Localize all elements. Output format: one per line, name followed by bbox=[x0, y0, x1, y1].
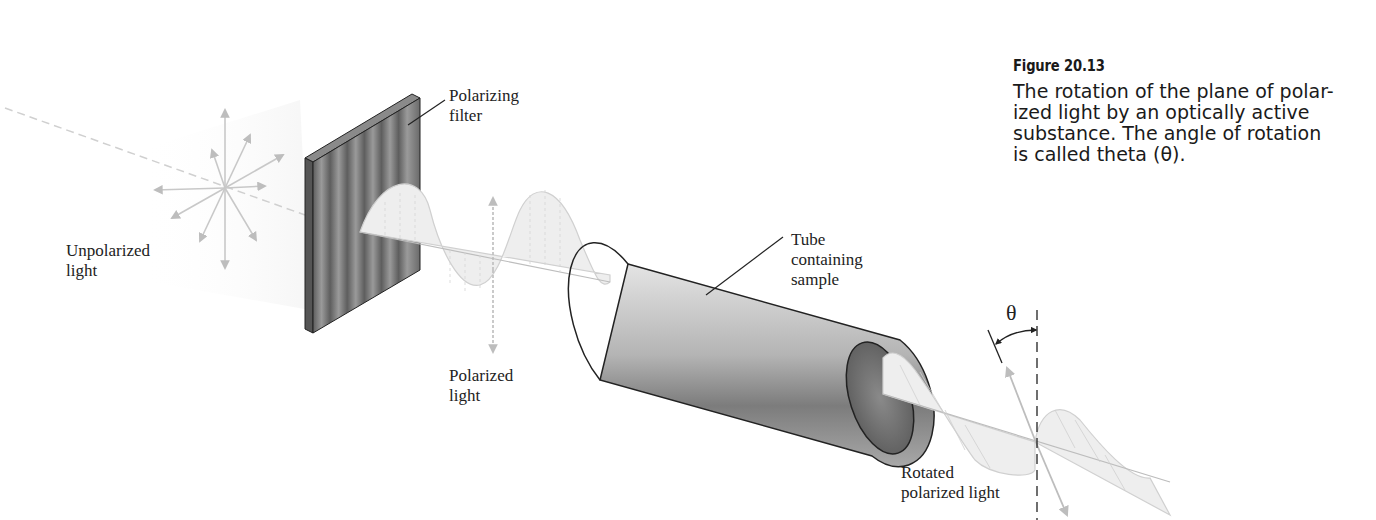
label-polarizing-filter: Polarizing filter bbox=[449, 86, 519, 126]
figure-caption: Figure 20.13 The rotation of the plane o… bbox=[1013, 56, 1373, 165]
label-unpolarized-light: Unpolarized light bbox=[66, 241, 150, 281]
label-tube: Tube containing sample bbox=[791, 230, 863, 290]
caption-text: The rotation of the plane of polar- ized… bbox=[1013, 81, 1373, 165]
figure-number: Figure 20.13 bbox=[1013, 56, 1308, 75]
rotated-axis-tick bbox=[988, 330, 1002, 363]
label-polarized-light: Polarized light bbox=[449, 366, 513, 406]
theta-label: θ bbox=[1006, 300, 1017, 326]
rotated-polarized-arrow-icon bbox=[1007, 368, 1035, 440]
theta-arc-icon bbox=[996, 330, 1036, 344]
sample-tube bbox=[568, 243, 934, 467]
label-rotated-polarized-light: Rotated polarized light bbox=[901, 463, 1000, 503]
tube-leader-line bbox=[706, 237, 783, 295]
